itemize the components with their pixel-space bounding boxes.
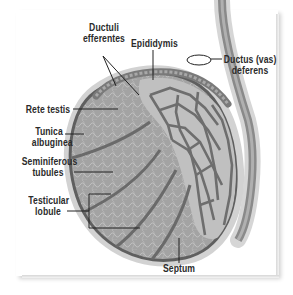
label-tunica-line2: albuginea [32,137,66,148]
label-seminiferous-line2: tubules [22,167,74,178]
label-ductuli-efferentes: Ductuli efferentes [83,22,126,44]
label-septum-text: Septum [162,263,196,274]
label-ductuli-line2: efferentes [83,33,126,44]
label-septum: Septum [162,263,196,274]
label-rete-testis: Rete testis [25,104,71,115]
label-testicular-lobule: Testicular lobule [28,195,67,217]
label-seminiferous-tubules: Seminiferous tubules [22,156,74,178]
label-ductus-deferens: Ductus (vas) deferens [224,54,276,76]
label-testicular-line2: lobule [28,206,67,217]
label-tunica-albuginea: Tunica albuginea [32,126,66,148]
label-rete-text: Rete testis [25,104,71,115]
label-epididymis: Epididymis [131,38,177,49]
label-ductus-line2: deferens [224,65,276,76]
label-epididymis-text: Epididymis [131,38,177,49]
